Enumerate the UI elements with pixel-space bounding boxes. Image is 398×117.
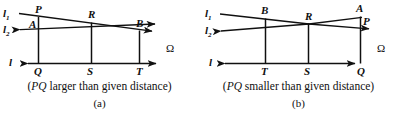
figure-root: l1 l2 P A R B l Q S T Ω (PQ larger than … [0,0,398,117]
panel-a-line2-label: l2 [3,24,10,38]
line-l1-ext [309,17,362,24]
point-label-T: T [261,66,268,77]
caption-pq: PQ [227,80,242,92]
panel-b-axis-label: l [209,57,212,68]
point-label-B: B [261,5,268,16]
point-label-A: A [29,19,36,30]
panel-a-caption: (PQ larger than given distance) [0,80,199,92]
omega-symbol: Ω [377,42,385,54]
panel-b-diagram [199,0,398,80]
panel-a-line1-label: l1 [3,8,10,22]
panel-a-diagram [0,0,199,80]
point-label-P: P [35,4,42,15]
point-label-B: B [136,18,143,29]
panel-a-sublabel: (a) [0,97,199,109]
panel-a: l1 l2 P A R B l Q S T Ω (PQ larger than … [0,0,199,117]
caption-rest: larger than given distance) [47,80,172,92]
caption-rest: smaller than given distance) [242,80,374,92]
point-label-R: R [305,11,312,22]
point-label-P: P [363,16,370,27]
point-label-R: R [88,9,95,20]
point-label-Q: Q [34,66,42,77]
point-label-S: S [87,66,93,77]
panel-b: l1 l2 B R A P l T S Q Ω (PQ smaller than… [199,0,398,117]
caption-pq: PQ [31,80,46,92]
panel-a-axis-label: l [9,57,12,68]
panel-b-line2-label: l2 [205,25,212,39]
point-label-T: T [136,66,143,77]
point-label-S: S [304,66,310,77]
panel-b-caption: (PQ smaller than given distance) [199,80,398,92]
panel-b-line1-label: l1 [205,8,212,22]
point-label-A: A [356,3,363,14]
point-label-Q: Q [357,66,365,77]
panel-b-sublabel: (b) [199,97,398,109]
omega-symbol: Ω [166,42,174,54]
